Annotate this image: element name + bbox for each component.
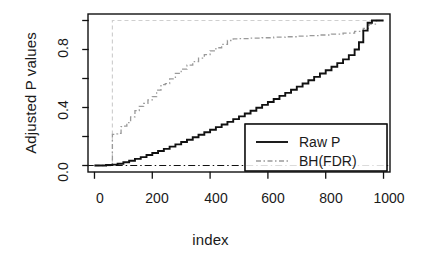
y-tick-label-1: 0.4	[55, 93, 71, 127]
x-tick-label-0: 0	[76, 190, 124, 206]
x-tick-label-3: 600	[249, 190, 297, 206]
x-tick-label-1: 200	[133, 190, 181, 206]
x-tick-label-5: 1000	[365, 190, 413, 206]
x-axis-title: index	[0, 231, 421, 248]
legend-label-raw-p: Raw P	[299, 134, 340, 150]
y-axis-title: Adjusted P values	[22, 0, 39, 188]
y-tick-label-2: 0.8	[55, 31, 71, 65]
x-tick-label-4: 800	[307, 190, 355, 206]
x-tick-label-2: 400	[192, 190, 240, 206]
chart-figure: Adjusted P values index 0.0 0.4 0.8 0 20…	[0, 0, 421, 266]
legend-label-bh-fdr: BH(FDR)	[299, 153, 357, 169]
y-tick-label-0: 0.0	[55, 155, 71, 189]
